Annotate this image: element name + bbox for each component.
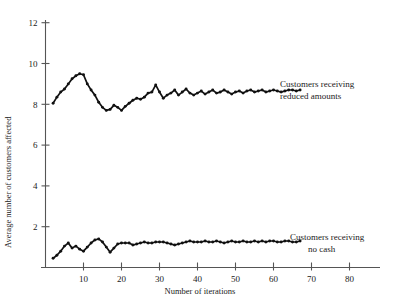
series-data-point [230, 240, 233, 243]
series-data-point [226, 241, 229, 244]
series-data-point [158, 91, 161, 94]
series-data-point [162, 241, 165, 244]
series-data-point [249, 241, 252, 244]
series-data-point [131, 244, 134, 247]
series-data-point [173, 89, 176, 92]
series-data-point [169, 243, 172, 246]
series-data-point [234, 241, 237, 244]
series-data-point [181, 91, 184, 94]
series-data-point [257, 241, 260, 244]
series-data-point [242, 240, 245, 243]
x-tick-label: 40 [193, 274, 203, 284]
lower-series-annotation-line1: Customers receiving [290, 232, 365, 242]
series-data-point [158, 241, 161, 244]
upper-series-annotation-line2: reduced amounts [280, 91, 342, 101]
series-data-point [192, 94, 195, 97]
series-data-point [63, 88, 66, 91]
series-data-point [245, 241, 248, 244]
series-data-point [253, 91, 256, 94]
series-data-point [120, 242, 123, 245]
x-tick-label: 20 [117, 274, 127, 284]
series-data-point [223, 242, 226, 245]
series-data-point [86, 82, 89, 85]
series-data-point [188, 240, 191, 243]
series-data-point [264, 91, 267, 94]
series-data-point [105, 246, 108, 249]
series-layer [52, 72, 302, 260]
series-data-point [264, 241, 267, 244]
series-data-point [200, 90, 203, 93]
series-data-point [211, 241, 214, 244]
series-data-point [128, 102, 131, 105]
series-data-point [188, 92, 191, 95]
x-tick-label: 50 [231, 274, 241, 284]
series-data-point [90, 242, 93, 245]
series-data-point [116, 243, 119, 246]
series-data-point [52, 102, 55, 105]
series-data-point [268, 240, 271, 243]
series-data-point [147, 242, 150, 245]
series-data-point [223, 89, 226, 92]
x-tick-label: 80 [345, 274, 355, 284]
y-tick-label: 2 [33, 222, 38, 232]
series-data-point [52, 257, 55, 260]
series-data-point [166, 94, 169, 97]
series-data-point [139, 242, 142, 245]
lower-series-annotation-line2: no cash [308, 244, 336, 254]
series-data-point [109, 108, 112, 111]
series-data-point [135, 97, 138, 100]
data-series [52, 72, 302, 112]
series-data-point [74, 74, 77, 77]
x-tick-label: 60 [269, 274, 279, 284]
series-data-point [97, 101, 100, 104]
series-data-point [234, 91, 237, 94]
series-data-point [169, 92, 172, 95]
series-data-point [63, 245, 66, 248]
series-data-point [196, 92, 199, 95]
y-axis-ticks: 24681012 [29, 18, 50, 232]
series-data-point [272, 240, 275, 243]
series-data-point [116, 106, 119, 109]
series-data-point [71, 247, 74, 250]
y-axis-title: Average number of customers affected [3, 116, 13, 248]
x-axis-ticks: 1020304050607080 [79, 263, 355, 284]
y-tick-label: 12 [29, 18, 38, 28]
series-data-point [268, 90, 271, 93]
series-data-point [82, 250, 85, 253]
series-data-point [181, 242, 184, 245]
series-line [53, 74, 300, 111]
series-data-point [249, 89, 252, 92]
series-data-point [124, 105, 127, 108]
series-data-point [109, 251, 112, 254]
series-data-point [200, 241, 203, 244]
series-data-point [283, 240, 286, 243]
series-data-point [120, 109, 123, 112]
y-tick-label: 6 [33, 140, 38, 150]
series-data-point [204, 93, 207, 96]
series-data-point [276, 90, 279, 93]
upper-series-annotation-line1: Customers receiving [280, 79, 355, 89]
series-data-point [230, 93, 233, 96]
series-data-point [112, 247, 115, 250]
series-data-point [238, 241, 241, 244]
series-data-point [97, 237, 100, 240]
series-data-point [276, 241, 279, 244]
chart-container: 24681012 1020304050607080 Average number… [0, 0, 397, 307]
series-data-point [78, 72, 81, 75]
series-data-point [139, 98, 142, 101]
series-data-point [147, 92, 150, 95]
series-data-point [185, 241, 188, 244]
series-data-point [143, 241, 146, 244]
series-data-point [166, 242, 169, 245]
series-data-point [124, 242, 127, 245]
y-tick-label: 4 [33, 181, 38, 191]
series-data-point [55, 96, 58, 99]
series-data-point [71, 77, 74, 80]
series-data-point [196, 241, 199, 244]
series-data-point [150, 242, 153, 245]
series-data-point [215, 240, 218, 243]
series-data-point [280, 241, 283, 244]
series-data-point [261, 89, 264, 92]
series-data-point [226, 91, 229, 94]
series-data-point [177, 94, 180, 97]
